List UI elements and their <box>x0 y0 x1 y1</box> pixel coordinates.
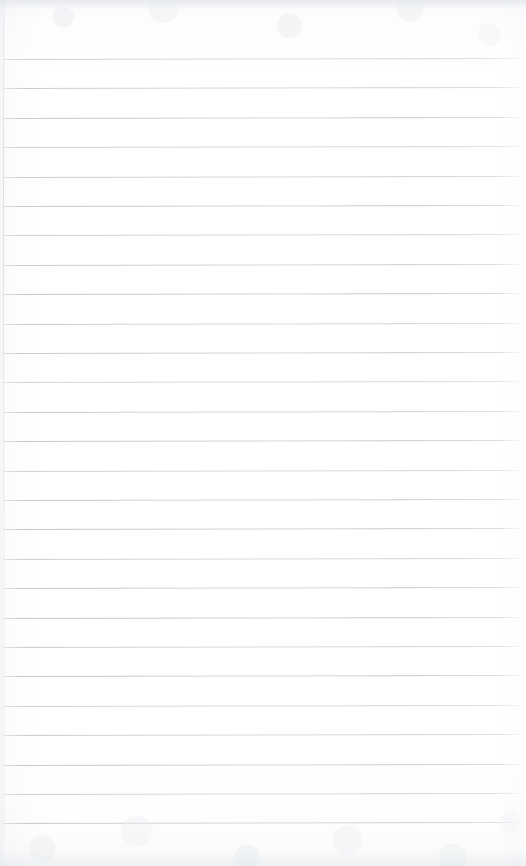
rule-line <box>3 205 520 207</box>
rule-line <box>3 675 520 677</box>
rule-line <box>3 617 520 619</box>
rule-line <box>3 734 520 736</box>
rule-line <box>3 323 520 325</box>
rule-line <box>3 381 520 383</box>
rule-line <box>3 146 520 148</box>
rule-line <box>3 87 520 89</box>
rule-line <box>3 58 520 60</box>
ruled-lines-group <box>0 0 526 866</box>
rule-line <box>3 293 520 295</box>
rule-line <box>3 558 520 560</box>
rule-line <box>3 793 520 795</box>
rule-line <box>3 470 520 472</box>
rule-line <box>3 822 520 824</box>
scanned-page <box>0 0 526 866</box>
rule-line <box>3 117 520 119</box>
rule-line <box>3 764 520 766</box>
rule-line <box>3 528 520 530</box>
rule-line <box>3 587 520 589</box>
rule-line <box>3 646 520 648</box>
rule-line <box>3 352 520 354</box>
rule-line <box>3 264 520 266</box>
rule-line <box>3 176 520 178</box>
rule-line <box>3 499 520 501</box>
rule-line <box>3 411 520 413</box>
rule-line <box>3 234 520 236</box>
rule-line <box>3 440 520 442</box>
rule-line <box>3 705 520 707</box>
